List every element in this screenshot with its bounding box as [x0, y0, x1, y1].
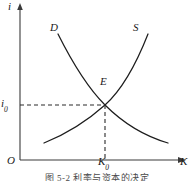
x-tick-label-k0: K0	[98, 156, 109, 170]
supply-curve-label: S	[133, 22, 139, 33]
x-axis-label: K	[180, 156, 187, 167]
demand-curve	[58, 34, 168, 143]
demand-curve-label: D	[50, 22, 58, 33]
y-tick-subscript: 0	[4, 105, 8, 114]
origin-label: O	[7, 155, 15, 166]
y-axis-arrowhead	[17, 3, 23, 10]
supply-demand-chart	[0, 0, 194, 181]
y-axis-label: i	[8, 1, 11, 12]
y-tick-label-i0: i0	[1, 98, 8, 112]
figure-caption: 图 5-2 利率与资本的决定	[0, 171, 194, 181]
figure-container: i K O D S E i0 K0 图 5-2 利率与资本的决定	[0, 0, 194, 181]
equilibrium-point-label: E	[100, 76, 107, 87]
